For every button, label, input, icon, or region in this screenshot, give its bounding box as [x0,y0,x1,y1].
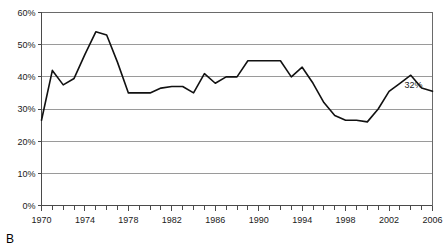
y-axis-ticks [38,13,42,206]
y-tick-label-40: 40% [17,72,35,82]
y-tick-label-20: 20% [17,137,35,147]
endpoint-value-label: 32% [405,80,423,90]
y-tick-label-50: 50% [17,40,35,50]
x-tick-label-1974: 1974 [75,215,95,225]
gridlines [42,13,433,174]
x-tick-label-1978: 1978 [118,215,138,225]
chart-annotations: 32% [405,80,423,90]
y-axis-tick-labels: 0%10%20%30%40%50%60% [17,8,35,211]
figure-panel-b: 0%10%20%30%40%50%60% 1970197419781982198… [0,0,448,247]
line-chart: 0%10%20%30%40%50%60% 1970197419781982198… [0,0,448,247]
x-tick-label-1982: 1982 [162,215,182,225]
x-tick-label-1970: 1970 [31,215,51,225]
x-tick-label-2002: 2002 [379,215,399,225]
x-tick-label-1990: 1990 [249,215,269,225]
y-tick-label-60: 60% [17,8,35,18]
x-axis-tick-labels: 1970197419781982198619901994199820022006 [31,215,442,225]
x-tick-label-1986: 1986 [205,215,225,225]
y-tick-label-30: 30% [17,104,35,114]
y-tick-label-10: 10% [17,169,35,179]
x-tick-label-1994: 1994 [292,215,312,225]
x-tick-label-2006: 2006 [422,215,442,225]
y-tick-label-0: 0% [22,201,35,211]
x-axis-ticks [42,206,433,211]
panel-label-b: B [6,232,14,246]
x-tick-label-1998: 1998 [336,215,356,225]
